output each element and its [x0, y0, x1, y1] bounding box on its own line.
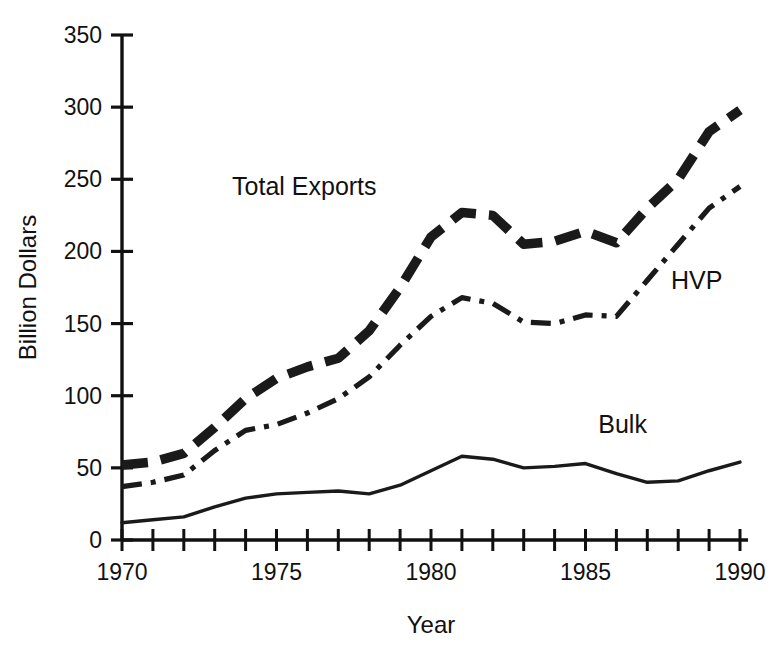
- series-annotations: Total ExportsHVPBulk: [232, 172, 722, 438]
- x-axis-tick-label: 1990: [714, 559, 765, 585]
- x-axis-tick-label: 1985: [560, 559, 611, 585]
- y-axis-tick-label: 0: [89, 527, 102, 553]
- series-line-total-exports: [122, 110, 740, 465]
- axes: [111, 35, 748, 551]
- x-axis-tick-label: 1980: [405, 559, 456, 585]
- y-axis-tick-label: 150: [64, 311, 102, 337]
- chart-plot-area: 0501001502002503003501970197519801985199…: [0, 0, 783, 662]
- y-axis-tick-label: 100: [64, 383, 102, 409]
- series-label-total-exports: Total Exports: [232, 172, 377, 200]
- y-axis-tick-label: 300: [64, 94, 102, 120]
- axis-labels: 0501001502002503003501970197519801985199…: [14, 22, 766, 638]
- y-axis-tick-label: 50: [76, 455, 102, 481]
- x-axis-tick-label: 1970: [96, 559, 147, 585]
- series-line-bulk: [122, 456, 740, 522]
- data-series: [122, 110, 740, 523]
- y-axis-tick-label: 200: [64, 238, 102, 264]
- chart-container: 0501001502002503003501970197519801985199…: [0, 0, 783, 662]
- x-axis-title: Year: [407, 611, 456, 638]
- y-axis-tick-label: 250: [64, 166, 102, 192]
- series-label-hvp: HVP: [671, 266, 722, 294]
- x-axis-tick-label: 1975: [251, 559, 302, 585]
- series-label-bulk: Bulk: [598, 410, 647, 438]
- y-axis-tick-label: 350: [64, 22, 102, 48]
- y-axis-title: Billion Dollars: [14, 215, 41, 360]
